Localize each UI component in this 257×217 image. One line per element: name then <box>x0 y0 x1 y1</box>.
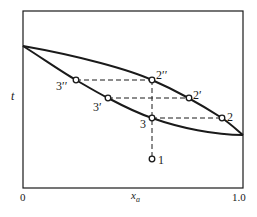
point-1 <box>149 156 155 162</box>
label-point-3: 3 <box>140 117 146 131</box>
plot-frame <box>23 11 243 188</box>
x-axis-label: xa <box>130 189 140 204</box>
point-2 <box>219 115 225 121</box>
x-axis-label-sub: a <box>136 195 140 204</box>
y-axis-label: t <box>11 89 15 103</box>
state-points <box>73 77 225 162</box>
label-point-3-double-prime: 3′′ <box>56 79 68 93</box>
point-3-double-prime <box>73 77 79 83</box>
point-3 <box>149 115 155 121</box>
label-point-3-prime: 3′ <box>93 100 102 114</box>
point-2-double-prime <box>149 77 155 83</box>
label-point-2: 2 <box>227 110 233 124</box>
point-2-prime <box>186 95 192 101</box>
x-tick-0: 0 <box>20 191 26 203</box>
label-point-2-double-prime: 2′′ <box>156 68 168 82</box>
point-3-prime <box>105 95 111 101</box>
label-point-1: 1 <box>158 153 164 167</box>
boiling-point-diagram: 1 2 2′ 2′′ 3 3′ 3′′ t 0 1.0 xa <box>0 0 257 217</box>
x-tick-1: 1.0 <box>232 191 246 203</box>
label-point-2-prime: 2′ <box>193 88 202 102</box>
